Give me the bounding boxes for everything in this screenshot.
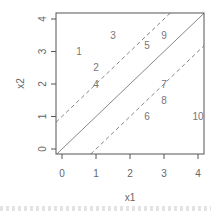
x-tick-label: 1 <box>93 168 99 179</box>
x-axis-label: x1 <box>125 192 136 203</box>
point-label: 7 <box>161 79 167 90</box>
point-label: 5 <box>144 40 150 51</box>
point-label: 9 <box>161 30 167 41</box>
point-label: 8 <box>161 95 167 106</box>
scatter-chart: 01234 01234 12345678910 x1 x2 <box>0 0 211 213</box>
point-label: 4 <box>93 79 99 90</box>
x-tick-label: 2 <box>127 168 133 179</box>
dashed-reference-line <box>91 46 204 154</box>
y-tick-label: 1 <box>37 113 48 119</box>
point-label: 2 <box>93 62 99 73</box>
y-axis: 01234 <box>37 16 57 152</box>
x-tick-label: 3 <box>161 168 167 179</box>
y-tick-label: 0 <box>37 146 48 152</box>
y-axis-label: x2 <box>15 78 26 89</box>
y-tick-label: 3 <box>37 48 48 54</box>
point-labels: 12345678910 <box>76 30 204 122</box>
y-tick-label: 2 <box>37 81 48 87</box>
reference-lines <box>56 13 204 154</box>
point-label: 10 <box>192 111 204 122</box>
solid-reference-line <box>57 13 204 154</box>
point-label: 6 <box>144 111 150 122</box>
x-tick-label: 4 <box>195 168 201 179</box>
x-tick-label: 0 <box>59 168 65 179</box>
x-axis: 01234 <box>59 154 201 179</box>
y-tick-label: 4 <box>37 16 48 22</box>
point-label: 1 <box>76 46 82 57</box>
point-label: 3 <box>110 30 116 41</box>
cropped-caption-text <box>0 206 211 211</box>
